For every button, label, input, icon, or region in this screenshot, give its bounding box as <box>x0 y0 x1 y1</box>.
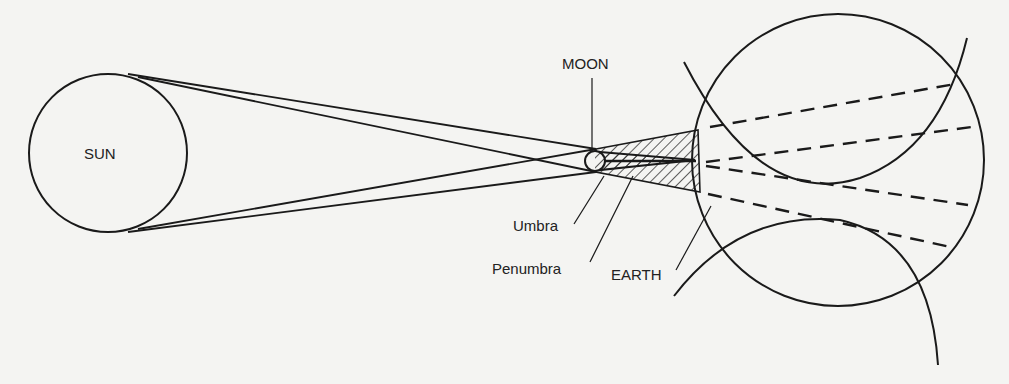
diagram-canvas <box>0 0 1009 384</box>
dashed-rays <box>706 84 972 248</box>
earth-upper-arc <box>684 38 967 184</box>
earth-circle <box>692 14 984 306</box>
earth-label: EARTH <box>611 266 662 283</box>
tangent-lines <box>128 74 596 232</box>
penumbra-label: Penumbra <box>492 260 561 277</box>
sun-label: SUN <box>84 145 116 162</box>
eclipse-diagram: SUN MOON Umbra Penumbra EARTH <box>0 0 1009 384</box>
umbra-label: Umbra <box>513 217 558 234</box>
moon-label: MOON <box>562 55 609 72</box>
